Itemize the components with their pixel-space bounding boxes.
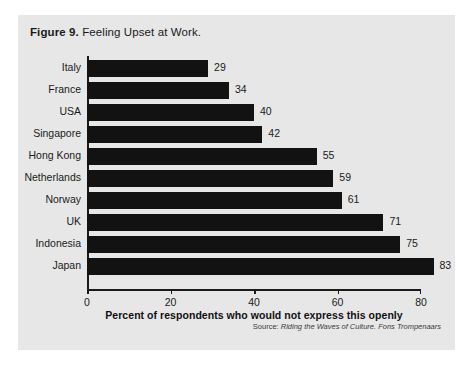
bar-value-label: 59 — [339, 169, 351, 186]
category-label: USA — [59, 103, 81, 120]
bar — [87, 236, 400, 253]
bar-value-label: 29 — [214, 59, 226, 76]
bar-value-label: 83 — [440, 257, 452, 274]
x-axis-tick-label: 20 — [165, 296, 177, 308]
source-title: Riding the Waves of Culture. Fons Trompe… — [281, 322, 441, 331]
bar-row: Norway61 — [87, 190, 455, 212]
bar-row: Hong Kong55 — [87, 146, 455, 168]
chart-plot-area: Italy29France34USA40Singapore42Hong Kong… — [18, 53, 455, 303]
x-axis-tick — [87, 289, 89, 294]
category-label: Norway — [45, 191, 81, 208]
bar-row: Italy29 — [87, 58, 455, 80]
bar-row: UK71 — [87, 212, 455, 234]
bar-row: Netherlands59 — [87, 168, 455, 190]
bar-row: Indonesia75 — [87, 234, 455, 256]
bar-value-label: 71 — [389, 213, 401, 230]
bar — [87, 258, 434, 275]
bar — [87, 126, 262, 143]
x-axis-tick — [338, 289, 340, 294]
category-label: Singapore — [33, 125, 81, 142]
category-label: Indonesia — [35, 235, 81, 252]
x-axis-tick-label: 40 — [248, 296, 260, 308]
bar-value-label: 55 — [323, 147, 335, 164]
bar-row: Japan83 — [87, 256, 455, 278]
x-axis-tick — [254, 289, 256, 294]
bar — [87, 60, 208, 77]
bar — [87, 104, 254, 121]
bar-row: France34 — [87, 80, 455, 102]
figure-title-text: Feeling Upset at Work. — [82, 26, 201, 38]
figure-panel: Figure 9. Feeling Upset at Work. Italy29… — [18, 15, 455, 350]
figure-title: Figure 9. Feeling Upset at Work. — [30, 26, 201, 38]
category-label: France — [48, 81, 81, 98]
category-label: Hong Kong — [28, 147, 81, 164]
bar — [87, 148, 317, 165]
category-label: Italy — [62, 59, 81, 76]
bar-value-label: 40 — [260, 103, 272, 120]
bar-value-label: 61 — [348, 191, 360, 208]
x-axis-tick-label: 80 — [415, 296, 427, 308]
bar-value-label: 34 — [235, 81, 247, 98]
bar — [87, 82, 229, 99]
x-axis: 020406080 — [87, 289, 421, 290]
bar — [87, 170, 333, 187]
source-label: Source: — [253, 322, 279, 331]
bar-value-label: 42 — [268, 125, 280, 142]
source-note: Source: Riding the Waves of Culture. Fon… — [253, 322, 441, 331]
x-axis-tick — [420, 289, 422, 294]
figure-number: Figure 9. — [30, 26, 79, 38]
category-label: Japan — [52, 257, 81, 274]
bar-value-label: 75 — [406, 235, 418, 252]
category-label: UK — [66, 213, 81, 230]
category-label: Netherlands — [24, 169, 81, 186]
x-axis-tick-label: 0 — [84, 296, 90, 308]
bar — [87, 192, 342, 209]
bar-series: Italy29France34USA40Singapore42Hong Kong… — [87, 58, 455, 288]
bar-row: USA40 — [87, 102, 455, 124]
x-axis-tick-label: 60 — [332, 296, 344, 308]
x-axis-tick — [171, 289, 173, 294]
bar — [87, 214, 383, 231]
bar-row: Singapore42 — [87, 124, 455, 146]
x-axis-title: Percent of respondents who would not exp… — [87, 309, 421, 321]
